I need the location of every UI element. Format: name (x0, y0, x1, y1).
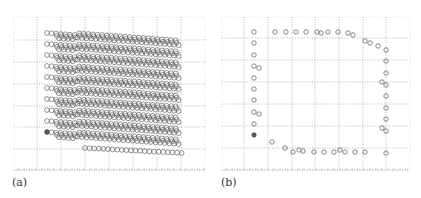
panel-b-label: (b) (221, 176, 237, 189)
panel-a-label: (a) (12, 176, 27, 189)
panel-a-lattice-points (45, 31, 184, 156)
figure-canvas (0, 0, 421, 198)
panel-a-plot (14, 17, 205, 170)
panel-b-gridlines (222, 17, 410, 170)
panel-b-plot (222, 17, 410, 170)
panel-b-boundary-points (252, 30, 388, 155)
